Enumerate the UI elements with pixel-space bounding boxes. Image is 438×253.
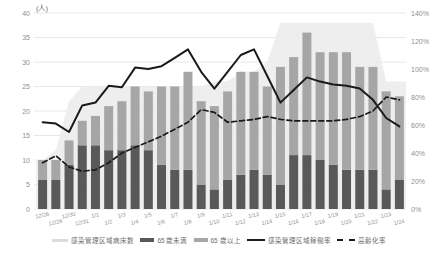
svg-text:1/4: 1/4	[130, 218, 139, 225]
svg-text:12/29: 12/29	[48, 218, 63, 227]
legend-item-4: 感染管理区域稼働率	[247, 235, 331, 245]
svg-text:1/24: 1/24	[393, 218, 405, 226]
svg-text:1/8: 1/8	[183, 218, 192, 225]
svg-text:1/23: 1/23	[380, 211, 392, 219]
svg-text:1/20: 1/20	[340, 218, 352, 226]
svg-text:80%: 80%	[411, 94, 425, 101]
svg-text:40: 40	[22, 10, 30, 17]
svg-text:1/11: 1/11	[222, 211, 233, 219]
legend-swatch-5	[337, 239, 355, 241]
legend-item-1: 感染管理区域病床数	[52, 235, 134, 245]
svg-text:1/17: 1/17	[301, 211, 313, 219]
svg-text:5: 5	[26, 181, 30, 188]
chart: (人) 05101520253035400%20%40%60%80%100%12…	[0, 0, 438, 253]
svg-text:1/13: 1/13	[248, 211, 260, 219]
y-axis-left: 0510152025303540	[22, 10, 30, 213]
x-axis: 12/2812/2912/3012/311/11/21/31/41/51/61/…	[35, 211, 405, 227]
svg-text:100%: 100%	[411, 66, 429, 73]
svg-text:1/19: 1/19	[327, 211, 339, 219]
svg-text:35: 35	[22, 34, 30, 41]
svg-text:1/5: 1/5	[144, 211, 153, 218]
svg-text:1/15: 1/15	[274, 211, 286, 219]
legend-label-5: 高齢化率	[358, 235, 386, 245]
y-axis-right: 0%20%40%60%80%100%120%140%	[411, 10, 429, 213]
svg-text:20: 20	[22, 108, 30, 115]
svg-text:1/16: 1/16	[287, 218, 299, 226]
chart-canvas: 05101520253035400%20%40%60%80%100%120%14…	[0, 0, 438, 253]
svg-text:15: 15	[22, 132, 30, 139]
legend-swatch-2	[140, 238, 154, 242]
svg-text:1/6: 1/6	[157, 218, 166, 225]
svg-text:12/31: 12/31	[74, 218, 89, 227]
svg-text:12/30: 12/30	[61, 211, 76, 220]
legend-label-3: 65 歳以上	[211, 235, 241, 245]
svg-text:0: 0	[26, 206, 30, 213]
legend-swatch-3	[194, 238, 208, 242]
svg-text:1/22: 1/22	[367, 218, 379, 226]
legend-label-4: 感染管理区域稼働率	[268, 235, 331, 245]
svg-text:1/18: 1/18	[314, 218, 326, 226]
svg-text:1/14: 1/14	[261, 218, 273, 226]
svg-text:0%: 0%	[411, 206, 421, 213]
svg-text:25: 25	[22, 83, 30, 90]
legend-swatch-1	[52, 239, 68, 242]
svg-text:12/28: 12/28	[35, 211, 50, 220]
svg-text:10: 10	[22, 157, 30, 164]
svg-text:1/21: 1/21	[353, 211, 365, 219]
chart-legend: 感染管理区域病床数65 歳未満65 歳以上感染管理区域稼働率高齢化率	[0, 235, 438, 245]
svg-text:120%: 120%	[411, 38, 429, 45]
svg-text:1/3: 1/3	[117, 211, 126, 218]
legend-label-2: 65 歳未満	[157, 235, 187, 245]
svg-text:1/10: 1/10	[208, 218, 220, 226]
legend-item-5: 高齢化率	[337, 235, 386, 245]
svg-text:1/2: 1/2	[104, 218, 113, 225]
legend-item-3: 65 歳以上	[194, 235, 241, 245]
svg-text:40%: 40%	[411, 150, 425, 157]
legend-label-1: 感染管理区域病床数	[71, 235, 134, 245]
svg-text:30: 30	[22, 59, 30, 66]
svg-text:1/9: 1/9	[196, 211, 205, 218]
svg-text:140%: 140%	[411, 10, 429, 17]
svg-text:20%: 20%	[411, 178, 425, 185]
svg-text:60%: 60%	[411, 122, 425, 129]
legend-item-2: 65 歳未満	[140, 235, 187, 245]
svg-text:1/12: 1/12	[235, 218, 247, 226]
legend-swatch-4	[247, 239, 265, 241]
svg-text:1/1: 1/1	[91, 211, 100, 218]
svg-text:1/7: 1/7	[170, 211, 179, 218]
